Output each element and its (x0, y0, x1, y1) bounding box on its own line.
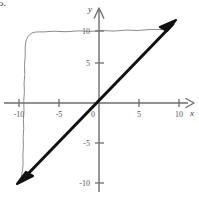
y-tick-label-5: 5 (86, 59, 90, 68)
y-tick-label--10: -10 (79, 179, 90, 188)
line-series-y-equals-x (17, 20, 176, 184)
line-segment (23, 24, 173, 179)
x-tick-label-5: 5 (137, 110, 141, 119)
x-tick-label--5: -5 (56, 110, 63, 119)
coordinate-plane-figure: -10 -5 0 5 10 10 5 -5 -10 x y (0, 0, 199, 198)
line-arrowhead-lower-left-icon (17, 172, 33, 184)
x-axis-label: x (189, 108, 194, 118)
y-tick-label--5: -5 (83, 139, 90, 148)
origin-label: 0 (91, 110, 95, 119)
y-axis-label: y (87, 4, 92, 14)
graph-screenshot: 5. -10 -5 (0, 0, 199, 198)
x-tick-label-10: 10 (175, 110, 183, 119)
x-tick-label--10: -10 (14, 110, 25, 119)
